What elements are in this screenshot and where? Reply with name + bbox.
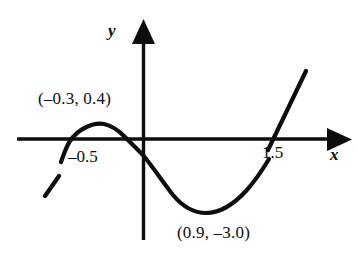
right-root-tick-label: 1.5 [262,144,283,161]
y-axis-label: y [108,22,116,39]
x-axis-label: x [330,146,339,163]
y-axis-arrowhead-icon [132,19,155,44]
curve-left-tail [45,176,59,196]
local-max-point-label: (–0.3, 0.4) [38,90,111,107]
left-root-tick-label: –0.5 [68,148,98,165]
cubic-curve [61,124,269,213]
local-min-point-label: (0.9, –3.0) [177,224,250,241]
plot-canvas [0,0,357,256]
graph-figure: (–0.3, 0.4) (0.9, –3.0) –0.5 1.5 y x [0,0,357,256]
